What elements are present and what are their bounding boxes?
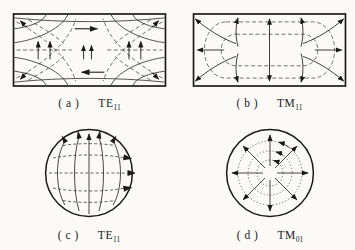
e-field-lines-c (58, 134, 121, 214)
e-field-line (99, 137, 104, 211)
right-arrowhead (128, 170, 136, 176)
e-field-arrow-corner (303, 56, 343, 81)
caption-d-index: ( d ) (237, 229, 259, 241)
e-field-arrow-corner (303, 19, 343, 44)
h-field-line (103, 19, 162, 78)
e-field-line (111, 15, 164, 43)
e-field-line (15, 15, 47, 29)
h-field-line (16, 19, 75, 78)
tangential-arrow (279, 142, 290, 148)
caption-b: ( b )TM11 (192, 97, 347, 112)
caption-c: ( c )TE11 (43, 229, 135, 244)
panel-a-diagram (12, 13, 167, 87)
e-field-arrows-a (20, 21, 158, 79)
center-arrows-a (75, 29, 105, 72)
e-field-line (15, 71, 47, 85)
h-field-arrowheads-c (123, 154, 135, 191)
e-field-radials-d (232, 135, 308, 211)
e-field-line (15, 57, 68, 85)
panel-b-diagram (192, 13, 347, 87)
e-field-line (133, 71, 165, 85)
caption-a-index: ( a ) (58, 97, 79, 109)
caption-d: ( d )TM01 (224, 229, 316, 244)
caption-a: ( a )TE11 (12, 97, 167, 112)
tangential-arrow (276, 152, 283, 156)
radial-arrow-ne (275, 146, 297, 168)
caption-b-mode: TM11 (277, 97, 302, 109)
e-field-line (15, 78, 165, 82)
e-field-lines-b (196, 18, 344, 82)
caption-a-mode: TE11 (98, 97, 120, 109)
e-field-line (75, 137, 80, 211)
e-field-line (15, 18, 165, 22)
tangential-arrow (274, 161, 278, 163)
e-field-line (15, 15, 68, 43)
e-field-line (133, 15, 165, 29)
e-field-arrow-corner (196, 56, 236, 81)
caption-b-index: ( b ) (236, 97, 258, 109)
h-field-line (103, 22, 162, 81)
radial-arrow-nw (243, 146, 265, 168)
panel-c-diagram (43, 127, 135, 219)
radial-arrow-sw (243, 178, 265, 200)
panel-d-diagram (224, 127, 316, 219)
figure-waveguide-mode-patterns: ( a )TE11 ( b )TM11 ( c )TE11 ( d )TM01 (0, 0, 355, 250)
caption-d-mode: TM01 (277, 229, 303, 241)
h-field-line (16, 22, 75, 81)
e-field-arrow-corner (196, 19, 236, 44)
caption-c-index: ( c ) (58, 229, 79, 241)
e-field-line (111, 57, 164, 85)
radial-arrow-se (275, 178, 297, 200)
caption-c-mode: TE11 (98, 229, 120, 241)
